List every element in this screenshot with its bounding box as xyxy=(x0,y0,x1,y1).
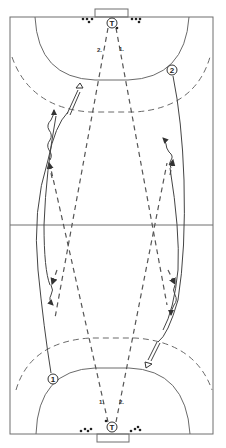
ball-dot xyxy=(135,18,138,21)
player-1-sprint-arrowhead xyxy=(76,83,83,88)
ball-dot xyxy=(84,428,87,431)
ball-dot xyxy=(139,18,142,21)
player-1-dribble-down xyxy=(50,285,53,305)
ball-dot xyxy=(137,426,140,429)
ball-dot xyxy=(90,428,93,431)
player-1-run-inner xyxy=(44,116,56,285)
player-label: T xyxy=(110,423,115,432)
goalkeeper-bottom: T xyxy=(107,422,117,432)
player-2-run-outer xyxy=(158,76,184,342)
pass-arrow-right-down xyxy=(168,270,175,284)
pass-label: 1. xyxy=(119,46,124,52)
pass-line-top-right xyxy=(116,28,167,305)
player-1: 1 xyxy=(48,374,58,384)
player-label: 2 xyxy=(170,66,175,75)
goal-bottom xyxy=(97,434,129,442)
ball-dot xyxy=(88,21,91,24)
player-2-dribble-up xyxy=(163,138,172,168)
ball-dot xyxy=(82,18,85,21)
ball-dot xyxy=(131,18,134,21)
ball-dot xyxy=(138,21,141,24)
ball-dot xyxy=(80,430,83,433)
player-2-sprint-arrowhead xyxy=(145,362,152,368)
handball-drill-diagram: T T 2 1 2. 1. 1. 2. xyxy=(0,0,226,448)
goal-top xyxy=(95,9,128,17)
pass-label: 2. xyxy=(97,47,102,53)
player-2-path xyxy=(145,76,184,368)
ball-dot xyxy=(130,430,133,433)
pass-line-bottom-right xyxy=(116,163,167,422)
free-throw-line-top xyxy=(12,57,210,112)
ball-dot xyxy=(91,18,94,21)
ball-dot xyxy=(105,420,108,423)
player-label: 1 xyxy=(51,375,56,384)
pass-label: 2. xyxy=(119,399,124,405)
ball-dot xyxy=(86,18,89,21)
pass-arrow-left-down xyxy=(52,270,57,284)
goalkeeper-top: T xyxy=(107,18,117,28)
ball-dot xyxy=(134,428,137,431)
ball-dot xyxy=(87,430,90,433)
player-1-path xyxy=(36,83,83,373)
free-throw-lines xyxy=(12,57,212,390)
pass-arrows xyxy=(49,160,175,284)
pass-label: 1. xyxy=(99,399,104,405)
player-2: 2 xyxy=(167,65,177,75)
pass-line-bottom-left xyxy=(50,165,108,422)
player-1-run-outer xyxy=(36,112,68,373)
ball-dot xyxy=(116,27,119,30)
free-throw-line-bottom xyxy=(16,338,212,390)
player-label: T xyxy=(110,19,115,28)
ball-dot xyxy=(139,429,142,432)
